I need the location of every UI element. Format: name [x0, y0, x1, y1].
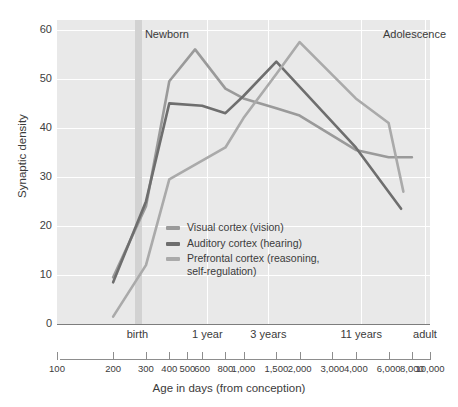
scale-tick-label: 6,000 [377, 363, 401, 374]
legend-swatch-prefrontal-cortex [166, 257, 180, 261]
scale-tick [244, 352, 245, 360]
annotation-label: Adolescence [383, 28, 446, 40]
secondary-x-tick-label: 3 years [250, 328, 286, 340]
secondary-x-tick-label: birth [127, 328, 148, 340]
annotation-label: Newborn [145, 28, 189, 40]
secondary-x-tick-label: 11 years [341, 328, 382, 340]
scale-tick [187, 352, 188, 360]
legend: Visual cortex (vision) Auditory cortex (… [166, 221, 319, 280]
scale-tick-label: 300 [138, 363, 154, 374]
legend-label-auditory-cortex: Auditory cortex (hearing) [187, 237, 302, 250]
scale-tick-label: 10,000 [415, 363, 444, 374]
scale-tick-label: 200 [105, 363, 121, 374]
x-axis-title: Age in days (from conception) [0, 382, 458, 394]
scale-tick [146, 352, 147, 360]
scale-tick [202, 352, 203, 360]
scale-tick [332, 352, 333, 360]
scale-tick-label: 100 [49, 363, 65, 374]
scale-tick [276, 352, 277, 360]
scale-tick [169, 352, 170, 360]
scale-tick [300, 352, 301, 360]
scale-tick [225, 352, 226, 360]
scale-tick-label: 1,000 [232, 363, 256, 374]
chart-container: 0102030405060 Synaptic density birth1 ye… [0, 0, 458, 407]
scale-tick-label: 3,000 [321, 363, 345, 374]
scale-tick-label: 500 [179, 363, 195, 374]
scale-tick [356, 352, 357, 360]
scale-tick [389, 352, 390, 360]
scale-tick-label: 4,000 [344, 363, 368, 374]
scale-tick-label: 400 [161, 363, 177, 374]
secondary-x-tick-label: 1 year [192, 328, 223, 340]
legend-swatch-visual-cortex [166, 226, 180, 230]
scale-tick [113, 352, 114, 360]
scale-tick [57, 352, 58, 360]
legend-item: Visual cortex (vision) [166, 221, 319, 234]
series-lines [0, 0, 458, 407]
legend-item: Prefrontal cortex (reasoning, self-regul… [166, 252, 319, 277]
legend-swatch-auditory-cortex [166, 242, 180, 246]
scale-bar-line [60, 359, 430, 360]
scale-tick [412, 352, 413, 360]
legend-item: Auditory cortex (hearing) [166, 237, 319, 250]
legend-label-visual-cortex: Visual cortex (vision) [187, 221, 284, 234]
scale-tick-label: 1,500 [264, 363, 288, 374]
legend-label-prefrontal-cortex: Prefrontal cortex (reasoning, self-regul… [187, 252, 319, 277]
scale-tick-label: 2,000 [288, 363, 312, 374]
secondary-x-tick-label: adult [413, 328, 437, 340]
scale-tick [430, 352, 431, 360]
scale-tick-label: 600 [194, 363, 210, 374]
